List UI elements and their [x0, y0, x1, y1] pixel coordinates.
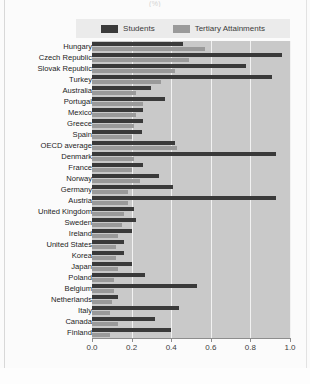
bar-students: [92, 306, 179, 310]
bar-row: Ireland: [0, 228, 310, 239]
bar-tertiary: [92, 245, 116, 249]
category-label: United States: [4, 239, 92, 250]
bar-row: Poland: [0, 272, 310, 283]
category-label: Turkey: [4, 74, 92, 85]
x-tick: [132, 338, 133, 342]
bar-students: [92, 273, 145, 277]
x-tick-label: 0.4: [166, 343, 177, 352]
legend-label-students: Students: [123, 24, 155, 33]
bar-tertiary: [92, 278, 114, 282]
bar-students: [92, 251, 124, 255]
bar-row: Germany: [0, 184, 310, 195]
category-label: Mexico: [4, 107, 92, 118]
bar-students: [92, 284, 197, 288]
bar-row: Hungary: [0, 41, 310, 52]
bar-row: Canada: [0, 316, 310, 327]
bar-tertiary: [92, 80, 161, 84]
bar-students: [92, 218, 136, 222]
bar-tertiary: [92, 311, 110, 315]
x-tick: [290, 338, 291, 342]
category-label: OECD average: [4, 140, 92, 151]
page-bottom-strip: [0, 368, 310, 384]
bar-tertiary: [92, 179, 140, 183]
bar-row: France: [0, 162, 310, 173]
bar-tertiary: [92, 146, 177, 150]
bar-students: [92, 97, 165, 101]
category-label: Norway: [4, 173, 92, 184]
bar-students: [92, 42, 183, 46]
bar-students: [92, 207, 134, 211]
bar-tertiary: [92, 91, 136, 95]
category-label: Portugal: [4, 96, 92, 107]
bar-tertiary: [92, 300, 112, 304]
bar-tertiary: [92, 190, 128, 194]
bar-row: Denmark: [0, 151, 310, 162]
x-tick-label: 1.0: [284, 343, 295, 352]
bar-row: Sweden: [0, 217, 310, 228]
bar-students: [92, 196, 276, 200]
bar-tertiary: [92, 322, 118, 326]
category-label: Sweden: [4, 217, 92, 228]
bar-tertiary: [92, 256, 116, 260]
bar-tertiary: [92, 333, 110, 337]
chart-page: (%) Students Tertiary Attainments Hungar…: [0, 0, 310, 384]
bar-row: Greece: [0, 118, 310, 129]
x-tick: [250, 338, 251, 342]
bar-students: [92, 108, 143, 112]
bar-tertiary: [92, 69, 175, 73]
bar-tertiary: [92, 113, 136, 117]
category-label: Germany: [4, 184, 92, 195]
legend-label-tertiary: Tertiary Attainments: [195, 24, 265, 33]
bar-students: [92, 86, 151, 90]
bar-row: Korea: [0, 250, 310, 261]
bar-row: Australia: [0, 85, 310, 96]
category-label: United Kingdom: [4, 206, 92, 217]
category-label: Austria: [4, 195, 92, 206]
bar-tertiary: [92, 234, 118, 238]
bar-tertiary: [92, 289, 114, 293]
legend-swatch-tertiary-icon: [173, 25, 190, 33]
bar-students: [92, 185, 173, 189]
bar-tertiary: [92, 47, 205, 51]
bar-row: Turkey: [0, 74, 310, 85]
bar-tertiary: [92, 201, 128, 205]
bar-students: [92, 163, 143, 167]
chart-legend: Students Tertiary Attainments: [76, 19, 290, 38]
category-label: Spain: [4, 129, 92, 140]
bar-row: Slovak Republic: [0, 63, 310, 74]
bar-students: [92, 229, 132, 233]
x-tick-label: 0.8: [245, 343, 256, 352]
bar-students: [92, 141, 175, 145]
bar-students: [92, 75, 272, 79]
bar-tertiary: [92, 212, 124, 216]
chart-title: (%): [0, 0, 310, 7]
category-label: Ireland: [4, 228, 92, 239]
bar-students: [92, 174, 159, 178]
bar-students: [92, 317, 155, 321]
x-tick: [211, 338, 212, 342]
bar-students: [92, 64, 246, 68]
bar-tertiary: [92, 58, 189, 62]
bar-students: [92, 328, 171, 332]
bar-row: Norway: [0, 173, 310, 184]
bar-row: Finland: [0, 327, 310, 338]
category-label: Belgium: [4, 283, 92, 294]
category-label: Czech Republic: [4, 52, 92, 63]
plot-wrapper: HungaryCzech RepublicSlovak RepublicTurk…: [0, 41, 310, 341]
bar-tertiary: [92, 267, 118, 271]
bar-tertiary: [92, 135, 132, 139]
bar-students: [92, 130, 142, 134]
bar-row: Japan: [0, 261, 310, 272]
category-label: Finland: [4, 327, 92, 338]
bar-tertiary: [92, 223, 122, 227]
category-label: Denmark: [4, 151, 92, 162]
bar-tertiary: [92, 124, 134, 128]
x-tick: [92, 338, 93, 342]
bar-students: [92, 295, 118, 299]
x-tick-label: 0.6: [205, 343, 216, 352]
category-label: Netherlands: [4, 294, 92, 305]
bar-row: Spain: [0, 129, 310, 140]
bar-row: Portugal: [0, 96, 310, 107]
category-label: Hungary: [4, 41, 92, 52]
bar-students: [92, 119, 143, 123]
